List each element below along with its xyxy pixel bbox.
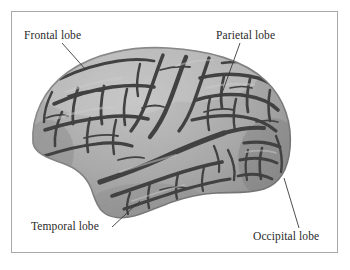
leader-line-frontal [62,43,86,70]
label-temporal-lobe: Temporal lobe [31,220,99,232]
label-occipital-lobe: Occipital lobe [253,230,319,242]
label-frontal-lobe: Frontal lobe [24,29,81,41]
label-parietal-lobe: Parietal lobe [216,29,275,41]
leader-line-occipital [284,178,299,228]
brain-lobes-figure: Frontal lobe Parietal lobe Temporal lobe… [0,0,350,270]
